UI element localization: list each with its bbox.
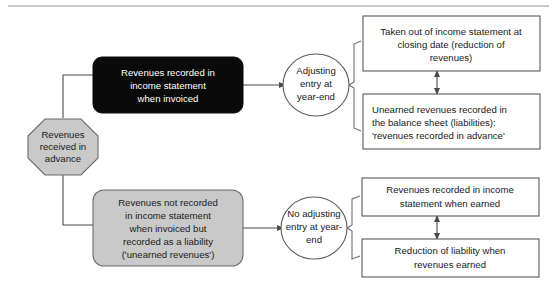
branch-top-line-3: when invoiced (137, 93, 199, 104)
start-node-line-1: Revenues (41, 129, 84, 140)
outcome-1-line-2: closing date (reduction of (397, 39, 505, 50)
decision-top-line-1: Adjusting (296, 65, 335, 76)
decision-bottom-line-2: entry at year- (286, 221, 343, 232)
outcome-4-line-2: revenues earned (414, 259, 486, 270)
branch-bottom-line-2: in income statement (125, 210, 211, 221)
outcome-2-line-3: 'revenues recorded in advance' (372, 130, 505, 141)
branch-bottom-line-3: when invoiced but (129, 223, 207, 234)
decision-top-line-3: year-end (297, 91, 335, 102)
start-node-line-3: advance (45, 153, 81, 164)
branch-bottom-line-4: recorded as a liability (123, 236, 213, 247)
outcome-1-line-1: Taken out of income statement at (380, 26, 522, 37)
flowchart-canvas: Revenues received in advance Revenues re… (0, 0, 557, 292)
brace-decision-top-upper (349, 41, 361, 85)
decision-bottom-line-3: end (306, 234, 322, 245)
start-node-line-2: received in (40, 141, 86, 152)
branch-top-line-1: Revenues recorded in (121, 67, 215, 78)
outcome-2-line-2: the balance sheet (liabilities): (372, 117, 496, 128)
outcome-4-line-1: Reduction of liability when (395, 245, 506, 256)
decision-top-line-2: entry at (300, 78, 332, 89)
outcome-2-line-1: Unearned revenues recorded in (372, 104, 507, 115)
decision-bottom-line-1: No adjusting (287, 208, 340, 219)
brace-decision-top-lower (349, 85, 361, 131)
branch-top-line-2: income statement (130, 80, 206, 91)
outcome-1-line-3: revenues) (430, 52, 473, 63)
branch-bottom-line-5: ('unearned revenues') (122, 249, 215, 260)
flowchart-svg: Revenues received in advance Revenues re… (0, 0, 557, 292)
outcome-3-line-2: statement when earned (400, 198, 500, 209)
brace-decision-bottom-lower (347, 228, 360, 259)
outcome-3-line-1: Revenues recorded in income (386, 184, 513, 195)
branch-bottom-line-1: Revenues not recorded (118, 197, 218, 208)
brace-decision-bottom-upper (347, 196, 360, 228)
